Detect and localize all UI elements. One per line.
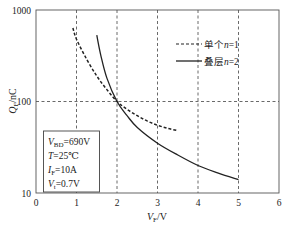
legend: 单个n=1 叠层n=2: [176, 39, 239, 67]
x-tick-1: 1: [74, 198, 79, 208]
legend-label-stacked: 叠层n=2: [204, 57, 239, 67]
x-tick-2: 2: [115, 198, 120, 208]
x-tick-6: 6: [277, 198, 282, 208]
chart: 1000 100 10 0 1 2 3 4 5 6 VF/V QF/nC 单个n…: [0, 0, 285, 226]
x-tick-5: 5: [236, 198, 241, 208]
y-tick-1000: 1000: [12, 6, 31, 16]
x-axis-label: VF/V: [147, 211, 168, 224]
annotation-box: VBD=690V T=25℃ IF=10A Vt=0.7V: [44, 131, 100, 192]
annotation-temp: T=25℃: [48, 151, 79, 161]
x-tick-3: 3: [155, 198, 160, 208]
legend-label-single: 单个n=1: [204, 39, 239, 50]
y-tick-10: 10: [22, 189, 32, 199]
series-single-n1: [73, 28, 178, 131]
x-tick-4: 4: [196, 198, 201, 208]
x-tick-0: 0: [34, 198, 39, 208]
